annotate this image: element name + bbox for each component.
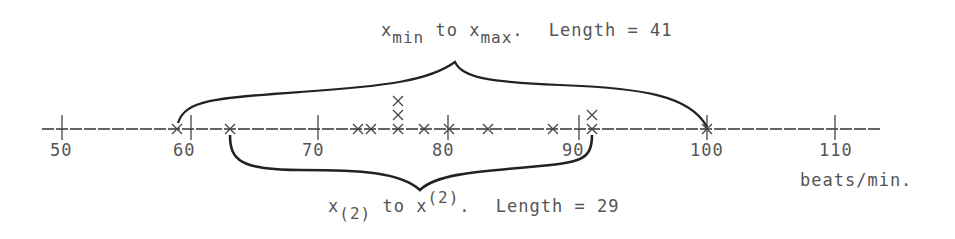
x-symbol: x [416,196,427,216]
tick-label-110: 110 [819,140,853,160]
period: . [512,20,523,40]
period: . [459,196,470,216]
tick-label-90: 90 [562,140,584,160]
tick-label-60: 60 [173,140,195,160]
bottom-annotation: x(2) to x(2). Length = 29 [328,196,619,216]
min-subscript: min [392,28,424,47]
tick-label-100: 100 [690,140,724,160]
length-text: Length = 41 [549,20,673,40]
top-brace [178,62,707,127]
upper-superscript: (2) [427,188,459,207]
tick-label-50: 50 [50,140,72,160]
x-symbol: x [381,20,392,40]
max-subscript: max [480,28,512,47]
to-text: to [435,20,457,40]
to-text: to [382,196,404,216]
x-symbol: x [328,196,339,216]
length-text: Length = 29 [496,196,620,216]
bottom-brace [230,135,592,190]
tick-label-70: 70 [302,140,324,160]
axis-unit-label: beats/min. [800,170,912,190]
lower-subscript: (2) [339,204,371,223]
x-symbol: x [469,20,480,40]
tick-label-80: 80 [432,140,454,160]
top-annotation: xmin to xmax. Length = 41 [381,20,672,40]
